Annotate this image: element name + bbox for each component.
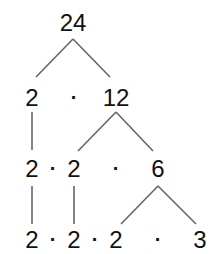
- node-2: 2: [25, 155, 38, 182]
- node-6: 6: [151, 155, 164, 182]
- branch-6-to-2: [121, 186, 158, 224]
- dot-operator: ·: [50, 228, 57, 250]
- factor-tree-diagram: 24 2 · 12 2 · 2 · 6 2 · 2 · 2 · 3: [0, 0, 217, 254]
- node-2: 2: [25, 84, 38, 111]
- branch-24-to-2: [36, 39, 73, 77]
- dot-operator: ·: [155, 228, 162, 250]
- node-12: 12: [103, 84, 130, 111]
- node-2: 2: [67, 155, 80, 182]
- branch-24-to-12: [73, 39, 110, 77]
- branch-12-to-2: [78, 112, 116, 151]
- node-2: 2: [67, 226, 80, 253]
- node-2: 2: [25, 226, 38, 253]
- tree-branches: [32, 39, 196, 224]
- node-2: 2: [109, 226, 122, 253]
- dot-operator: ·: [50, 157, 57, 179]
- node-24: 24: [60, 9, 87, 36]
- factor-tree-canvas: 24 2 · 12 2 · 2 · 6 2 · 2 · 2 · 3: [0, 0, 217, 254]
- branch-6-to-3: [158, 186, 196, 224]
- dot-operator: ·: [71, 86, 78, 108]
- dot-operator: ·: [113, 157, 120, 179]
- dot-operator: ·: [92, 228, 99, 250]
- node-3: 3: [193, 226, 206, 253]
- branch-12-to-6: [116, 112, 153, 151]
